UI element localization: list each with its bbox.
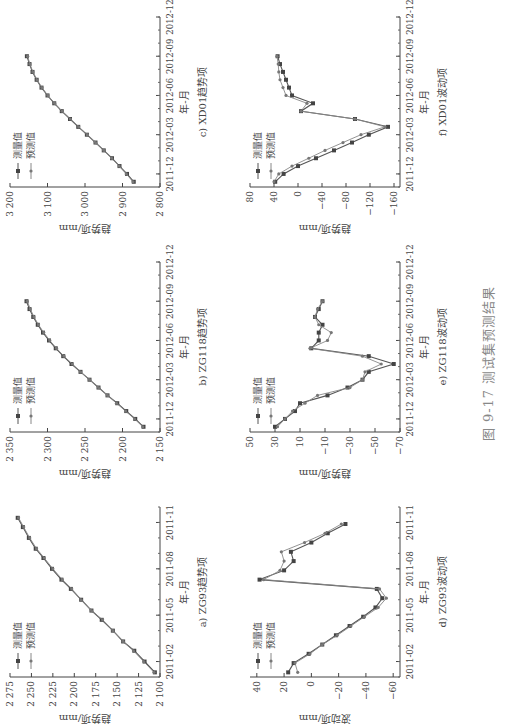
measured-marker <box>296 164 300 168</box>
x-tick-label: 2011-11 <box>405 505 415 540</box>
chart-title: b) ZG118趋势项 <box>196 308 208 386</box>
predicted-marker <box>80 598 83 601</box>
predicted-marker <box>323 149 326 152</box>
predicted-marker <box>363 615 366 618</box>
predicted-marker <box>280 550 283 553</box>
y-tick-label: 2 125 <box>134 681 144 707</box>
predicted-marker <box>97 386 100 389</box>
chart-f-svg: −160−120−80−4004080趋势项/mm2011-122012-032… <box>240 0 470 237</box>
y-tick-label: 0 <box>293 191 303 197</box>
predicted-marker <box>62 355 65 358</box>
chart-panel-a: 2 1002 1252 1502 1752 2002 2252 2502 275… <box>0 487 234 727</box>
predicted-marker <box>101 618 104 621</box>
legend-predicted: 预测值 <box>265 377 276 404</box>
chart-legend: 测量值预测值 <box>12 377 36 424</box>
predicted-marker <box>275 55 278 58</box>
x-axis-label: 年-月 <box>178 335 190 358</box>
legend-predicted: 预测值 <box>265 132 276 159</box>
x-tick-label: 2012-03 <box>165 117 175 152</box>
x-tick-label: 2011-12 <box>165 156 175 191</box>
measured-marker <box>386 125 390 129</box>
legend-measured: 测量值 <box>12 132 23 159</box>
predicted-marker <box>43 556 46 559</box>
measured-marker <box>367 133 371 137</box>
predicted-marker <box>122 640 125 643</box>
y-tick-label: 2 250 <box>26 681 36 707</box>
measured-marker <box>317 331 321 335</box>
predicted-marker <box>22 525 25 528</box>
predicted-marker <box>131 180 134 183</box>
predicted-marker <box>317 323 320 326</box>
y-tick-label: 2 225 <box>48 681 58 707</box>
chart-title: f) XD01波动项 <box>436 68 448 137</box>
chart-legend: 测量值预测值 <box>252 622 276 669</box>
x-tick-label: 2012-09 <box>405 284 415 319</box>
predicted-marker <box>115 402 118 405</box>
predicted-marker <box>361 355 364 358</box>
x-tick-label: 2011-08 <box>405 551 415 586</box>
predicted-marker <box>326 339 329 342</box>
y-tick-label: 80 <box>245 191 255 203</box>
predicted-marker <box>53 102 56 105</box>
y-tick-label: 3 000 <box>80 191 90 217</box>
x-tick-label: 2011-02 <box>165 644 175 679</box>
measured-line <box>27 301 144 427</box>
y-tick-label: −60 <box>388 681 398 700</box>
predicted-marker <box>42 331 45 334</box>
y-tick-label: −70 <box>395 436 405 455</box>
predicted-marker <box>361 378 364 381</box>
predicted-marker <box>353 117 356 120</box>
x-tick-label: 2012-06 <box>405 323 415 358</box>
predicted-marker <box>383 125 386 128</box>
predicted-marker <box>303 541 306 544</box>
predicted-marker <box>133 417 136 420</box>
predicted-marker <box>102 149 105 152</box>
measured-marker <box>332 148 336 152</box>
predicted-marker <box>118 164 121 167</box>
measured-marker <box>286 670 290 674</box>
measured-marker <box>287 86 291 90</box>
predicted-marker <box>32 315 35 318</box>
legend-measured: 测量值 <box>252 377 263 404</box>
measured-marker <box>298 401 302 405</box>
measured-marker <box>282 172 286 176</box>
predicted-marker <box>40 86 43 89</box>
y-tick-label: 0 <box>306 681 316 687</box>
predicted-marker <box>48 339 51 342</box>
predicted-line <box>264 524 387 672</box>
chart-c-svg: 2 8002 9003 0003 1003 200趋势项/mm2011-1220… <box>0 0 230 237</box>
predicted-marker <box>336 634 339 637</box>
y-tick-label: −10 <box>320 436 330 455</box>
chart-panel-b: 2 1502 2002 2502 3002 350趋势项/mm2011-1220… <box>0 242 234 482</box>
predicted-marker <box>79 370 82 373</box>
x-tick-label: 2011-08 <box>165 551 175 586</box>
x-tick-label: 2011-05 <box>165 598 175 633</box>
x-tick-label: 2012-09 <box>405 39 415 74</box>
x-tick-label: 2012-06 <box>165 323 175 358</box>
predicted-marker <box>277 62 280 65</box>
predicted-marker <box>26 55 29 58</box>
y-tick-label: −20 <box>334 681 344 700</box>
predicted-marker <box>281 86 284 89</box>
x-tick-label: 2011-11 <box>165 505 175 540</box>
predicted-marker <box>277 172 280 175</box>
x-tick-label: 2012-06 <box>405 78 415 113</box>
y-axis-label: 趋势项/mm <box>58 468 111 480</box>
measured-marker <box>350 141 354 145</box>
predicted-marker <box>70 587 73 590</box>
chart-panel-d: −60−40−2002040波动项/mm2011-022011-052011-0… <box>240 487 474 727</box>
x-tick-label: 2011-12 <box>165 401 175 436</box>
y-tick-label: −80 <box>341 191 351 210</box>
measured-marker <box>281 70 285 74</box>
predicted-marker <box>385 597 388 600</box>
predicted-marker <box>340 522 343 525</box>
y-axis-label: 波动项/mm <box>298 713 351 725</box>
chart-title: c) XD01趋势项 <box>196 67 208 138</box>
x-tick-label: 2011-02 <box>405 644 415 679</box>
y-tick-label: 2 175 <box>91 681 101 707</box>
y-tick-label: 3 200 <box>5 191 15 217</box>
predicted-marker <box>46 94 49 97</box>
y-tick-label: 2 200 <box>69 681 79 707</box>
chart-a-svg: 2 1002 1252 1502 1752 2002 2252 2502 275… <box>0 487 230 727</box>
measured-marker <box>343 522 347 526</box>
